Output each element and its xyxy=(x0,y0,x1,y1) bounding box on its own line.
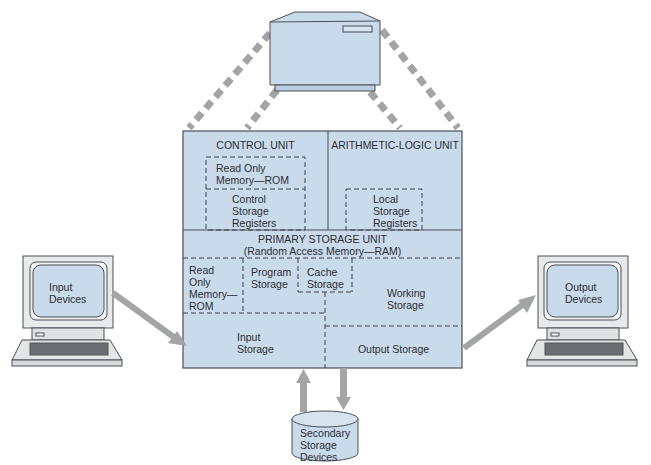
ps-rom-label: Read Only Memory— ROM xyxy=(189,264,244,312)
primary-storage-subtitle: (Random Access Memory—RAM) xyxy=(183,245,462,257)
program-storage-label: Program Storage xyxy=(251,266,299,290)
primary-storage-title: PRIMARY STORAGE UNIT xyxy=(183,233,462,245)
output-terminal-icon xyxy=(527,256,637,366)
cu-rom-label: Read Only Memory—ROM xyxy=(216,162,301,186)
primary-to-secondary-arrow xyxy=(336,368,351,410)
control-unit-title: CONTROL UNIT xyxy=(183,139,328,151)
cu-registers-label: Control Storage Registers xyxy=(232,193,302,229)
zoom-line-right-outer xyxy=(382,30,458,128)
secondary-storage-label: Secondary Storage Devices xyxy=(300,427,360,463)
alu-title: ARITHMETIC-LOGIC UNIT xyxy=(328,139,462,151)
working-storage-label: Working Storage xyxy=(387,287,447,311)
zoom-line-left-inner xyxy=(247,90,277,128)
input-storage-label: Input Storage xyxy=(237,331,297,355)
input-devices-label: Input Devices xyxy=(49,281,99,305)
alu-registers-label: Local Storage Registers xyxy=(373,193,423,229)
secondary-to-primary-arrow xyxy=(296,369,311,412)
zoom-line-right-inner xyxy=(370,92,400,128)
cache-storage-label: Cache Storage xyxy=(307,266,355,290)
output-storage-label: Output Storage xyxy=(325,343,462,355)
input-terminal-icon xyxy=(12,256,122,366)
output-devices-label: Output Devices xyxy=(565,281,615,305)
mainframe-icon xyxy=(270,12,380,91)
input-arrow xyxy=(113,293,187,346)
output-arrow xyxy=(464,295,536,348)
